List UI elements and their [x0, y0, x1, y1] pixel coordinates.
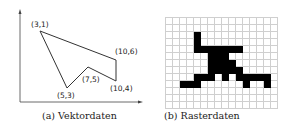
raster-cell-empty: [236, 32, 243, 39]
raster-cell-empty: [222, 88, 229, 95]
raster-cell-filled: [243, 74, 250, 81]
raster-cell-empty: [236, 102, 243, 109]
raster-cell-empty: [264, 95, 271, 102]
raster-cell-empty: [250, 32, 257, 39]
raster-cell-empty: [201, 95, 208, 102]
raster-cell-empty: [173, 60, 180, 67]
raster-cell-empty: [166, 74, 173, 81]
raster-cell-empty: [250, 60, 257, 67]
raster-cell-empty: [264, 102, 271, 109]
raster-cell-empty: [173, 18, 180, 25]
raster-cell-empty: [180, 102, 187, 109]
raster-cell-empty: [243, 32, 250, 39]
raster-cell-empty: [187, 60, 194, 67]
raster-cell-empty: [264, 88, 271, 95]
raster-cell-empty: [243, 25, 250, 32]
raster-cell-empty: [173, 53, 180, 60]
raster-cell-empty: [166, 18, 173, 25]
raster-cell-empty: [222, 25, 229, 32]
raster-cell-empty: [264, 67, 271, 74]
raster-cell-empty: [215, 81, 222, 88]
raster-cell-empty: [222, 32, 229, 39]
raster-cell-empty: [187, 18, 194, 25]
raster-cell-empty: [208, 102, 215, 109]
raster-cell-filled: [229, 46, 236, 53]
raster-cell-empty: [257, 95, 264, 102]
raster-cell-empty: [187, 88, 194, 95]
raster-cell-empty: [243, 88, 250, 95]
raster-cell-empty: [194, 25, 201, 32]
raster-cell-empty: [180, 46, 187, 53]
raster-cell-empty: [215, 25, 222, 32]
raster-cell-empty: [187, 95, 194, 102]
raster-cell-empty: [250, 39, 257, 46]
raster-cell-empty: [173, 67, 180, 74]
raster-cell-empty: [208, 18, 215, 25]
raster-cell-filled: [229, 60, 236, 67]
raster-cell-empty: [271, 46, 278, 53]
raster-cell-empty: [201, 81, 208, 88]
raster-cell-empty: [187, 46, 194, 53]
raster-cell-filled: [201, 74, 208, 81]
raster-cell-empty: [215, 102, 222, 109]
raster-cell-filled: [194, 39, 201, 46]
raster-cell-empty: [187, 67, 194, 74]
raster-cell-empty: [166, 39, 173, 46]
raster-cell-empty: [236, 81, 243, 88]
raster-cell-empty: [173, 95, 180, 102]
raster-cell-empty: [173, 88, 180, 95]
point-label-3-1: (3,1): [31, 20, 49, 29]
raster-cell-empty: [201, 39, 208, 46]
y-axis-arrow-icon: [19, 9, 22, 14]
raster-cell-empty: [173, 32, 180, 39]
raster-cell-empty: [187, 53, 194, 60]
raster-cell-empty: [222, 39, 229, 46]
raster-cell-filled: [201, 46, 208, 53]
raster-cell-empty: [166, 32, 173, 39]
raster-cell-empty: [257, 53, 264, 60]
raster-cell-filled: [194, 81, 201, 88]
raster-cell-empty: [194, 60, 201, 67]
raster-cell-empty: [236, 25, 243, 32]
raster-cell-empty: [257, 39, 264, 46]
raster-cell-empty: [229, 39, 236, 46]
raster-cell-empty: [250, 95, 257, 102]
raster-cell-empty: [271, 67, 278, 74]
raster-cell-empty: [271, 18, 278, 25]
raster-cell-empty: [180, 25, 187, 32]
raster-cell-empty: [180, 67, 187, 74]
raster-cell-empty: [208, 81, 215, 88]
raster-cell-empty: [201, 102, 208, 109]
raster-cell-empty: [208, 25, 215, 32]
raster-cell-empty: [180, 95, 187, 102]
raster-cell-empty: [236, 60, 243, 67]
raster-cell-empty: [243, 95, 250, 102]
raster-cell-empty: [180, 32, 187, 39]
raster-cell-empty: [250, 67, 257, 74]
raster-cell-empty: [229, 81, 236, 88]
raster-cell-filled: [243, 81, 250, 88]
raster-cell-empty: [257, 32, 264, 39]
raster-cell-filled: [180, 81, 187, 88]
raster-cell-empty: [215, 32, 222, 39]
raster-cell-empty: [236, 53, 243, 60]
raster-cell-empty: [180, 39, 187, 46]
raster-cell-empty: [271, 74, 278, 81]
raster-cell-empty: [250, 88, 257, 95]
raster-cell-filled: [194, 32, 201, 39]
raster-cell-filled: [264, 74, 271, 81]
raster-cell-empty: [166, 88, 173, 95]
raster-cell-empty: [166, 67, 173, 74]
raster-cell-filled: [222, 60, 229, 67]
raster-cell-filled: [236, 74, 243, 81]
raster-cell-empty: [166, 46, 173, 53]
raster-cell-empty: [173, 81, 180, 88]
raster-cell-empty: [271, 39, 278, 46]
raster-cell-empty: [215, 74, 222, 81]
point-label-5-3: (5,3): [57, 91, 75, 100]
raster-cell-empty: [166, 53, 173, 60]
raster-cell-empty: [236, 18, 243, 25]
raster-cell-empty: [229, 32, 236, 39]
raster-cell-empty: [222, 18, 229, 25]
raster-cell-empty: [194, 18, 201, 25]
